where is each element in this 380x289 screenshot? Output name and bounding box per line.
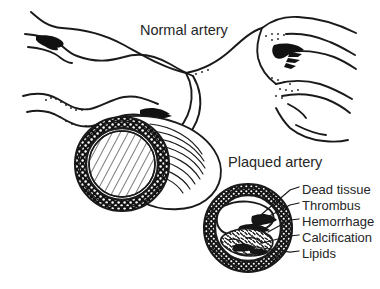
callout-label-dead-tissue: Dead tissue (302, 183, 371, 196)
plaqued-artery-title: Plaqued artery (228, 155, 322, 170)
normal-artery-title: Normal artery (140, 23, 228, 38)
plaqued-artery-cross-section (204, 184, 292, 272)
normal-artery-cross-section (75, 116, 221, 211)
callout-label-hemorrhage: Hemorrhage (302, 215, 374, 228)
artery-figure: Normal artery Plaqued artery Dead tissue… (0, 0, 380, 289)
callout-label-thrombus: Thrombus (302, 199, 361, 212)
callout-label-calcification: Calcification (302, 231, 372, 244)
wall-stipple-dots (45, 33, 299, 127)
callout-label-lipids: Lipids (302, 247, 336, 260)
